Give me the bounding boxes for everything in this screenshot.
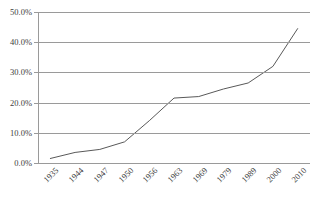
y-axis-tick xyxy=(34,12,38,13)
y-axis-tick-label: 50.0% xyxy=(0,8,32,17)
gridline xyxy=(38,42,310,43)
y-axis-tick xyxy=(34,72,38,73)
y-axis-tick-label: 20.0% xyxy=(0,99,32,108)
x-axis-tick-label: 1956 xyxy=(136,166,159,189)
chart-title xyxy=(0,0,317,2)
x-axis-tick-label: 2000 xyxy=(260,166,283,189)
x-axis-tick-label: 1944 xyxy=(62,166,85,189)
x-axis-tick-label: 1950 xyxy=(112,166,135,189)
y-axis-tick xyxy=(34,42,38,43)
gridline xyxy=(38,103,310,104)
x-axis-labels: 1935194419471950195619631969197919892000… xyxy=(38,164,310,197)
x-axis-tick-label: 1935 xyxy=(37,166,60,189)
x-axis-tick-label: 1979 xyxy=(210,166,233,189)
y-axis-tick-label: 10.0% xyxy=(0,129,32,138)
plot-area xyxy=(38,12,310,163)
y-axis-tick xyxy=(34,103,38,104)
x-axis-tick-label: 2010 xyxy=(285,166,308,189)
y-axis-tick xyxy=(34,133,38,134)
gridline xyxy=(38,12,310,13)
y-axis-tick-label: 0.0% xyxy=(0,159,32,168)
gridline xyxy=(38,133,310,134)
y-axis-tick-label: 40.0% xyxy=(0,38,32,47)
gridline xyxy=(38,72,310,73)
x-axis-tick-label: 1989 xyxy=(235,166,258,189)
y-axis-tick-label: 30.0% xyxy=(0,68,32,77)
x-axis-tick-label: 1963 xyxy=(161,166,184,189)
line-chart: 0.0%10.0%20.0%30.0%40.0%50.0% 1935194419… xyxy=(0,0,317,197)
x-axis-tick-label: 1969 xyxy=(186,166,209,189)
x-axis-tick-label: 1947 xyxy=(87,166,110,189)
series-line xyxy=(38,12,310,163)
